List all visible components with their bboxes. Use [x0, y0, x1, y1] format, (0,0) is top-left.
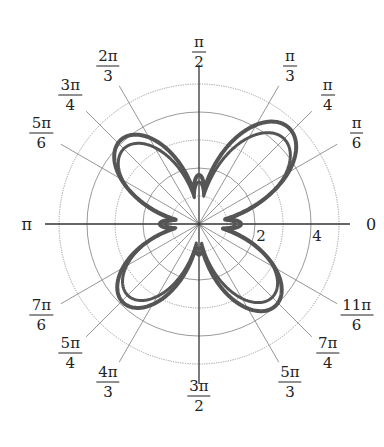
angle-label-210: 7π6: [30, 298, 53, 333]
label-denominator: 3: [103, 67, 113, 84]
angle-label-120: 2π3: [96, 49, 119, 84]
label-numerator: 5π: [278, 364, 301, 382]
label-denominator: 4: [323, 353, 333, 370]
angle-label-60: π3: [283, 49, 297, 84]
label-denominator: 4: [323, 96, 333, 113]
label-numerator: 3π: [59, 78, 82, 96]
radial-tick-label: 4: [312, 227, 322, 245]
angle-label-225: 5π4: [59, 335, 82, 370]
label-denominator: 4: [66, 353, 76, 370]
label-numerator: 4π: [96, 364, 119, 382]
curve-outer-trace: [114, 122, 296, 312]
label-denominator: 6: [352, 316, 362, 333]
grid-spoke-210: [61, 224, 199, 304]
label-numerator: 5π: [30, 116, 53, 134]
angle-label-270: 3π2: [187, 379, 210, 414]
label-numerator: π: [321, 78, 335, 96]
grid-spoke-240: [119, 224, 199, 362]
label-numerator: 11π: [340, 298, 373, 316]
angle-label-180: π: [22, 215, 33, 234]
radial-tick-label: 2: [256, 227, 266, 245]
label-denominator: 6: [352, 134, 362, 151]
label-numerator: 5π: [59, 335, 82, 353]
label-denominator: 6: [37, 316, 47, 333]
label-numerator: 7π: [316, 335, 339, 353]
grid-spoke-150: [61, 144, 199, 224]
label-numerator: 2π: [96, 49, 119, 67]
grid-spoke-60: [199, 86, 279, 224]
grid-spoke-120: [119, 86, 199, 224]
label-denominator: 2: [194, 52, 204, 69]
angle-label-135: 3π4: [59, 78, 82, 113]
polar-curve: [114, 122, 296, 312]
label-numerator: π: [350, 116, 364, 134]
angle-label-150: 5π6: [30, 116, 53, 151]
label-denominator: 2: [194, 397, 204, 414]
angle-label-90: π2: [192, 34, 206, 69]
angle-label-0: 0: [366, 215, 376, 234]
angle-label-30: π6: [350, 116, 364, 151]
angle-label-330: 11π6: [340, 298, 373, 333]
angle-label-300: 5π3: [278, 364, 301, 399]
label-numerator: 7π: [30, 298, 53, 316]
label-denominator: 6: [37, 134, 47, 151]
label-denominator: 4: [66, 96, 76, 113]
grid-spoke-300: [199, 224, 279, 362]
angle-label-240: 4π3: [96, 364, 119, 399]
label-denominator: 3: [285, 67, 295, 84]
label-numerator: π: [283, 49, 297, 67]
angle-label-45: π4: [321, 78, 335, 113]
angle-label-315: 7π4: [316, 335, 339, 370]
label-numerator: π: [192, 34, 206, 52]
label-denominator: 3: [285, 382, 295, 399]
label-denominator: 3: [103, 382, 113, 399]
label-numerator: 3π: [187, 379, 210, 397]
